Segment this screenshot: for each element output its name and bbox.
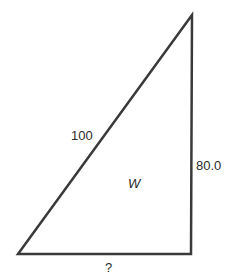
diagram-canvas: 100 80.0 W ? [0, 0, 241, 280]
right-triangle [0, 0, 241, 280]
triangle-outline [18, 15, 192, 254]
horizontal-side-label: ? [105, 261, 112, 274]
interior-label-w: W [128, 177, 140, 190]
vertical-side-label: 80.0 [196, 159, 221, 172]
hypotenuse-label: 100 [71, 129, 93, 142]
